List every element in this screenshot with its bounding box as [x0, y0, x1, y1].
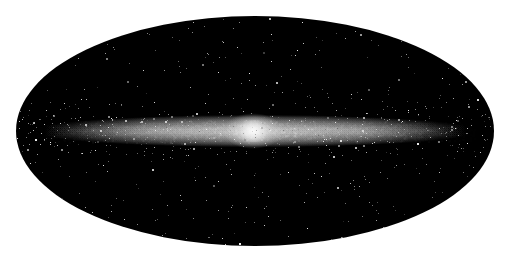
milky-way-sky-canvas: [0, 0, 509, 260]
